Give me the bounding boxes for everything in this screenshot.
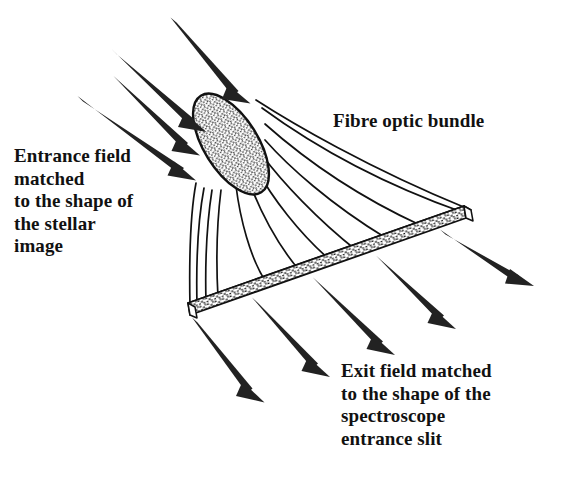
exit-slit: [188, 206, 473, 318]
figure-canvas: Entrance field matched to the shape of t…: [0, 0, 561, 485]
label-entrance-field: Entrance field matched to the shape of t…: [14, 145, 189, 258]
label-exit-field: Exit field matched to the shape of the s…: [341, 360, 556, 450]
output-arrow: [376, 256, 456, 330]
output-arrow: [313, 278, 395, 356]
output-arrow: [252, 298, 330, 378]
output-arrow: [440, 230, 534, 287]
output-arrow: [192, 318, 265, 403]
input-arrow: [171, 18, 251, 104]
label-fibre-bundle: Fibre optic bundle: [333, 110, 543, 133]
